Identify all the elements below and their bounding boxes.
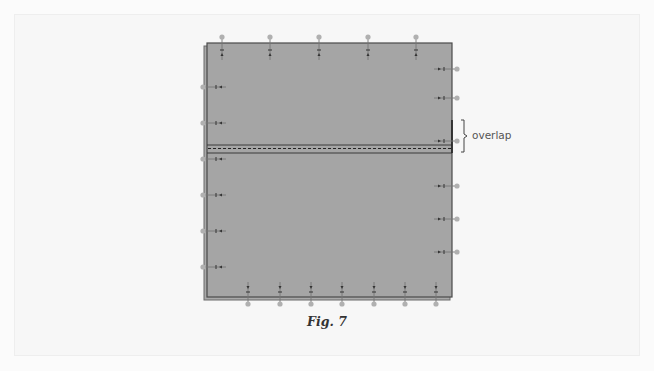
- overlap-bracket-icon: [461, 120, 467, 152]
- overlap-label: overlap: [472, 129, 511, 141]
- figure-caption: Fig. 7: [0, 314, 654, 329]
- fabric-panel: [207, 43, 452, 297]
